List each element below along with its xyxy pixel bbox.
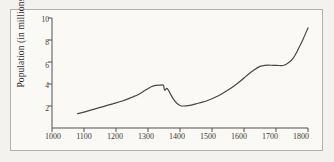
- chart-svg: [0, 0, 334, 162]
- x-tick-marks: [52, 128, 308, 132]
- y-tick-marks: [48, 18, 52, 106]
- figure-container: Population (in millions) 10 8 6 4 2 1000…: [0, 0, 334, 162]
- plot-area: Population (in millions) 10 8 6 4 2 1000…: [0, 0, 334, 162]
- population-line: [78, 28, 308, 114]
- axis-lines: [52, 18, 308, 128]
